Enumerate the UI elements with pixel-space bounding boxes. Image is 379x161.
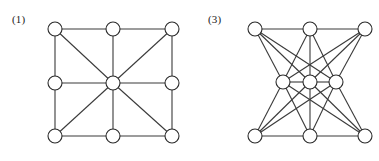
graph-vertex-top-right <box>358 22 372 36</box>
graph-edge <box>55 29 113 83</box>
graph-vertex-center <box>106 76 120 90</box>
graph-edge <box>255 82 283 136</box>
graph-edge <box>255 29 283 82</box>
graph-panel-3: (3) <box>190 0 379 161</box>
figure-root: (1) (3) <box>0 0 379 161</box>
graph-vertex-top-center <box>106 22 120 36</box>
graph-edge <box>113 29 172 83</box>
graph-panel-1: (1) <box>0 0 190 161</box>
graph-edge <box>255 82 310 136</box>
graph-vertex-middle-right <box>165 76 179 90</box>
graph-edge <box>336 29 365 82</box>
graph-vertex-top-left <box>248 22 262 36</box>
graph-vertex-middle-right <box>329 75 343 89</box>
graph-drawing-3 <box>190 0 379 161</box>
graph-edge <box>310 82 365 136</box>
graph-vertex-middle-left <box>276 75 290 89</box>
graph-vertex-top-left <box>48 22 62 36</box>
graph-vertex-bottom-right <box>358 129 372 143</box>
graph-drawing-1 <box>0 0 190 161</box>
graph-edge <box>255 29 310 82</box>
graph-edge <box>310 29 365 82</box>
graph-edge <box>336 82 365 136</box>
graph-vertex-bottom-center <box>303 129 317 143</box>
graph-vertex-bottom-left <box>48 129 62 143</box>
graph-edge <box>283 82 310 136</box>
graph-vertex-middle-left <box>48 76 62 90</box>
graph-edge <box>283 29 310 82</box>
graph-vertex-bottom-center <box>106 129 120 143</box>
graph-vertex-top-right <box>165 22 179 36</box>
graph-edge <box>113 83 172 136</box>
graph-vertex-bottom-left <box>248 129 262 143</box>
graph-vertex-top-center <box>303 22 317 36</box>
graph-vertex-bottom-right <box>165 129 179 143</box>
graph-vertex-middle-center <box>303 75 317 89</box>
graph-edge <box>55 83 113 136</box>
